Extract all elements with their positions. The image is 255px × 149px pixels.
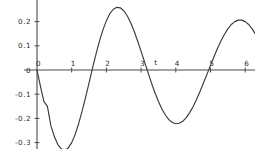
x-tick-label-1: 1	[71, 59, 76, 68]
x-axis-label: t	[154, 58, 157, 67]
y-tick-label-0.2: 0.2	[18, 17, 31, 26]
y-tick-label--0.2: -0.2	[15, 114, 31, 123]
x-tick-label-6: 6	[244, 59, 249, 68]
x-axis-tick-labels: 0123456	[36, 59, 249, 68]
y-tick-label--0.3: -0.3	[15, 138, 31, 147]
y-axis-tick-labels: 0.20.10-0.1-0.2-0.3	[15, 17, 31, 147]
x-tick-label-4: 4	[175, 59, 180, 68]
chart-figure: 0123456 0.20.10-0.1-0.2-0.3 t	[0, 0, 255, 149]
x-tick-label-0: 0	[36, 59, 41, 68]
axes-group	[24, 0, 255, 149]
y-tick-label--0.1: -0.1	[15, 90, 31, 99]
damped-oscillation-plot: 0123456 0.20.10-0.1-0.2-0.3 t	[0, 0, 255, 149]
y-tick-label-0.1: 0.1	[18, 41, 31, 50]
data-curve	[37, 7, 255, 149]
y-tick-label-0: 0	[26, 66, 31, 75]
x-tick-label-2: 2	[105, 59, 110, 68]
